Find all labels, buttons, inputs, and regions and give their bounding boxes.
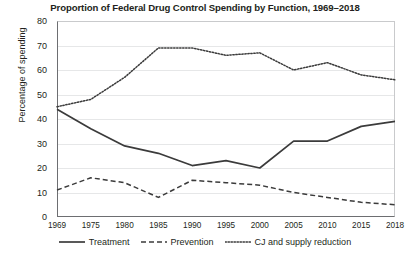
y-tick-label: 20 bbox=[37, 164, 47, 173]
x-tick-label: 2010 bbox=[318, 222, 336, 230]
x-tick-label: 2015 bbox=[352, 222, 370, 230]
x-tick-label: 1980 bbox=[115, 222, 133, 230]
y-tick-label: 80 bbox=[37, 17, 47, 26]
legend-item[interactable]: CJ and supply reduction bbox=[225, 237, 352, 247]
legend-item[interactable]: Treatment bbox=[59, 237, 130, 247]
plot-wrapper bbox=[57, 21, 395, 217]
chart-title: Proportion of Federal Drug Control Spend… bbox=[0, 2, 410, 13]
legend-label: Prevention bbox=[171, 237, 214, 247]
solid-line-icon bbox=[59, 238, 85, 246]
y-tick-label: 10 bbox=[37, 188, 47, 197]
y-tick-label: 0 bbox=[42, 213, 47, 222]
x-tick-label: 1969 bbox=[48, 222, 66, 230]
y-tick-label: 50 bbox=[37, 90, 47, 99]
y-tick-label: 40 bbox=[37, 115, 47, 124]
x-axis-tick-labels: 1969197519801985199019952000200520102015… bbox=[57, 222, 395, 236]
x-tick-label: 2005 bbox=[284, 222, 302, 230]
y-tick-label: 60 bbox=[37, 66, 47, 75]
y-axis-tick-labels: 01020304050607080 bbox=[0, 21, 52, 217]
y-tick-label: 30 bbox=[37, 139, 47, 148]
legend-label: CJ and supply reduction bbox=[255, 237, 352, 247]
x-tick-label: 1975 bbox=[82, 222, 100, 230]
legend-item[interactable]: Prevention bbox=[141, 237, 214, 247]
chart-container: Proportion of Federal Drug Control Spend… bbox=[0, 0, 410, 253]
legend-label: Treatment bbox=[89, 237, 130, 247]
series-line-treatment bbox=[57, 109, 395, 168]
x-tick-label: 2018 bbox=[386, 222, 404, 230]
series-line-cj-and-supply-reduction bbox=[57, 48, 395, 107]
dotted-line-icon bbox=[225, 238, 251, 246]
dashed-line-icon bbox=[141, 238, 167, 246]
x-tick-label: 1985 bbox=[149, 222, 167, 230]
x-tick-label: 2000 bbox=[251, 222, 269, 230]
x-tick-label: 1990 bbox=[183, 222, 201, 230]
y-tick-label: 70 bbox=[37, 41, 47, 50]
series-line-prevention bbox=[57, 178, 395, 205]
chart-legend: TreatmentPreventionCJ and supply reducti… bbox=[0, 237, 410, 247]
series-layer bbox=[57, 21, 395, 217]
x-tick-label: 1995 bbox=[217, 222, 235, 230]
